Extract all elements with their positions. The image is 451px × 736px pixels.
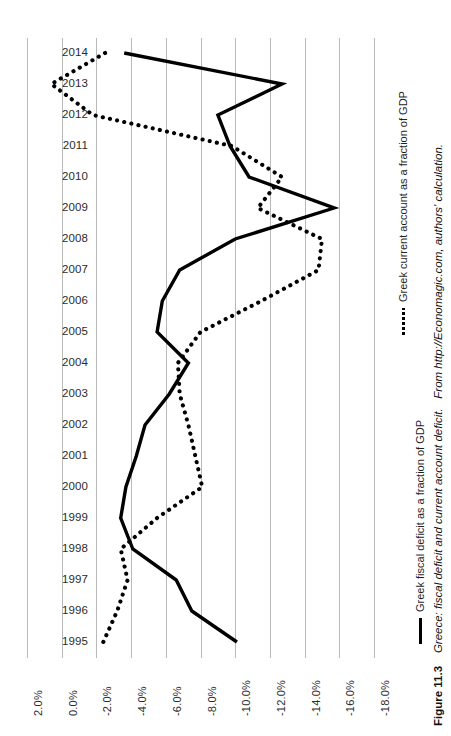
figure-container: 2014201320122011201020092008200720062005… (0, 0, 451, 736)
series-lines (0, 0, 390, 700)
figure-number: Figure 11.3 (432, 666, 444, 726)
dotted-line-swatch-icon (401, 308, 405, 336)
figure-caption: Figure 11.3 Greece: fiscal deficit and c… (432, 144, 444, 726)
legend-item-current-account: Greek current account as a fraction of G… (397, 91, 409, 336)
legend-label-fiscal-deficit: Greek fiscal deficit as a fraction of GD… (414, 420, 426, 612)
current-account-line (51, 53, 322, 642)
legend-label-current-account: Greek current account as a fraction of G… (397, 91, 409, 302)
chart-plot-area: 2014201320122011201020092008200720062005… (0, 0, 390, 700)
figure-source: From http://Economagic.com, authors' cal… (432, 144, 444, 399)
fiscal-deficit-line (121, 53, 334, 642)
legend-item-fiscal-deficit: Greek fiscal deficit as a fraction of GD… (414, 420, 426, 644)
solid-line-swatch-icon (419, 618, 422, 644)
figure-title: Greece: fiscal deficit and current accou… (432, 408, 444, 653)
